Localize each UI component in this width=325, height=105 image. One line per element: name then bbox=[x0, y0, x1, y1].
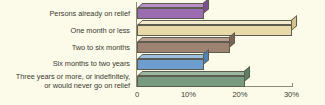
bar-2-face bbox=[137, 42, 230, 53]
category-label-0: Persons already on relief bbox=[49, 9, 130, 18]
bar-0-face bbox=[137, 8, 204, 19]
x-tick-label-2: 20% bbox=[232, 90, 247, 99]
bar-1-face bbox=[137, 25, 292, 36]
category-label-1: One month or less bbox=[70, 26, 130, 35]
plot-area: 0 10% 20% 30% bbox=[136, 0, 325, 105]
bar-3-face bbox=[137, 59, 204, 70]
x-tick-label-0: 0 bbox=[135, 90, 139, 99]
bar-4-face bbox=[137, 76, 245, 87]
category-label-column: Persons already on relief One month or l… bbox=[0, 0, 134, 105]
bar-2 bbox=[137, 37, 230, 49]
x-tick-label-1: 10% bbox=[181, 90, 196, 99]
bar-0 bbox=[137, 3, 204, 15]
bar-1 bbox=[137, 20, 292, 32]
bar-3 bbox=[137, 54, 204, 66]
x-tick-label-3: 30% bbox=[284, 90, 299, 99]
x-tick-3 bbox=[292, 83, 293, 87]
category-label-2: Two to six months bbox=[72, 43, 130, 52]
bar-chart-figure: Persons already on relief One month or l… bbox=[0, 0, 325, 105]
category-label-4: Three years or more, or indefinitely, or… bbox=[16, 72, 130, 91]
bar-4 bbox=[137, 71, 245, 83]
category-label-3: Six months to two years bbox=[53, 59, 130, 68]
